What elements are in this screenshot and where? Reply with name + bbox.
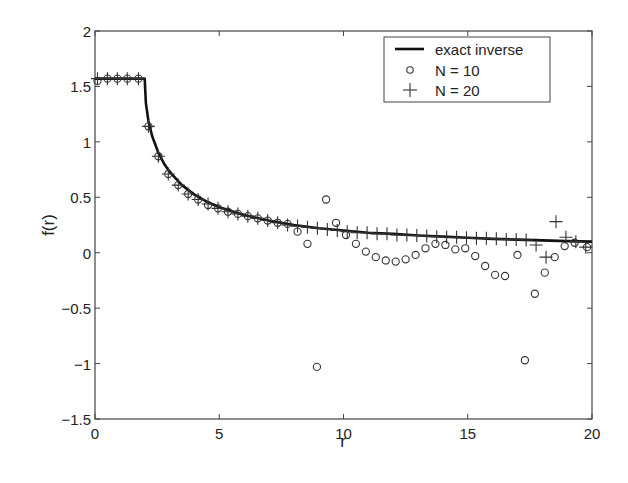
legend-label-n10: N = 10 xyxy=(435,62,480,79)
y-tick-label: −1.5 xyxy=(61,411,91,428)
x-tick-label: 5 xyxy=(215,425,223,442)
y-tick-label: 2 xyxy=(83,23,91,40)
legend-label-exact: exact inverse xyxy=(435,41,523,58)
y-tick-label: 1.5 xyxy=(70,78,91,95)
x-tick-label: 0 xyxy=(91,425,99,442)
legend: exact inverse N = 10 N = 20 xyxy=(384,37,550,102)
y-tick-label: 0.5 xyxy=(70,189,91,206)
x-axis-label: r xyxy=(340,432,346,451)
y-tick-label: −0.5 xyxy=(61,300,91,317)
x-tick-label: 15 xyxy=(459,425,476,442)
y-tick-label: 1 xyxy=(83,134,91,151)
y-tick-label: 0 xyxy=(83,245,91,262)
chart: 05101520−1.5−1−0.500.511.52 r f(r) exact… xyxy=(0,0,628,483)
x-tick-label: 20 xyxy=(584,425,601,442)
y-tick-label: −1 xyxy=(74,356,91,373)
legend-label-n20: N = 20 xyxy=(435,82,480,99)
y-axis-label: f(r) xyxy=(39,214,58,236)
